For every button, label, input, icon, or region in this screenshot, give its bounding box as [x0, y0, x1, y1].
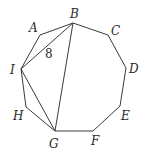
nonagon-outline: [21, 23, 126, 131]
vertex-label-g: G: [49, 137, 59, 151]
vertex-label-b: B: [69, 7, 79, 21]
diagonal-bg: [55, 23, 73, 131]
vertex-label-d: D: [128, 62, 139, 76]
vertex-label-e: E: [120, 109, 130, 123]
length-label: 8: [45, 47, 53, 61]
vertex-label-i: I: [9, 63, 15, 77]
nonagon-diagram: ABCDEFGHI 8: [0, 0, 145, 159]
vertex-label-f: F: [90, 134, 100, 148]
vertex-label-c: C: [111, 24, 120, 38]
vertex-label-h: H: [12, 109, 24, 123]
diagonals: [21, 23, 73, 131]
vertex-label-a: A: [28, 21, 38, 35]
vertex-labels: ABCDEFGHI: [9, 7, 139, 151]
annotations: 8: [45, 47, 53, 61]
diagonal-ig: [21, 69, 55, 131]
